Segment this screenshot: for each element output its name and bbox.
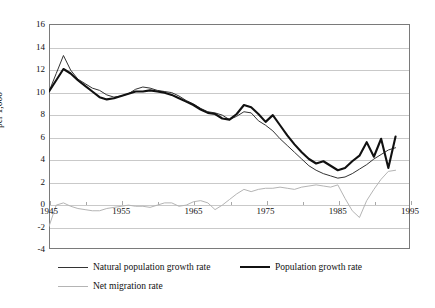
legend-item-natural-population-growth-rate[interactable]: Natural population growth rate: [58, 262, 210, 272]
x-tick-label-1985: 1985: [329, 206, 347, 216]
y-tick-label-14: 14: [36, 42, 45, 52]
legend-swatch-icon: [58, 286, 88, 287]
y-tick-label-10: 10: [36, 87, 45, 97]
y-axis-tick-labels: -4-20246810121416: [0, 24, 45, 249]
x-tick-label-1955: 1955: [112, 206, 130, 216]
legend-label: Population growth rate: [275, 262, 362, 272]
y-tick-label-12: 12: [36, 64, 45, 74]
x-tick-label-1945: 1945: [40, 206, 58, 216]
x-axis-tick-labels: 194519551965197519851995: [49, 206, 410, 222]
x-tick-label-1975: 1975: [257, 206, 275, 216]
y-tick-label-2: 2: [41, 177, 46, 187]
y-tick-label-6: 6: [41, 132, 46, 142]
legend-label: Net migration rate: [93, 281, 163, 291]
x-tick-label-1995: 1995: [401, 206, 419, 216]
series-line-natural-population-growth-rate: [49, 56, 396, 179]
series-line-population-growth-rate: [49, 69, 396, 170]
y-tick-label-4: 4: [41, 154, 46, 164]
y-tick-label-8: 8: [41, 109, 46, 119]
legend-label: Natural population growth rate: [93, 262, 210, 272]
y-tick-label-16: 16: [36, 19, 45, 29]
x-tick-label-1965: 1965: [184, 206, 202, 216]
chart-container: per 1,000 -4-20246810121416 194519551965…: [0, 0, 435, 308]
y-tick-label--2: -2: [38, 222, 46, 232]
legend-item-population-growth-rate[interactable]: Population growth rate: [240, 262, 362, 272]
legend-item-net-migration-rate[interactable]: Net migration rate: [58, 281, 163, 291]
y-tick-label--4: -4: [38, 244, 46, 254]
legend-swatch-icon: [240, 266, 270, 268]
legend-swatch-icon: [58, 267, 88, 268]
x-tick-1995: [411, 201, 412, 205]
chart-legend: Natural population growth ratePopulation…: [0, 262, 435, 308]
